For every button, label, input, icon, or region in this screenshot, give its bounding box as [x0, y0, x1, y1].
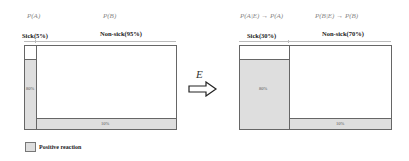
top-dimension-line	[24, 41, 176, 42]
posterior-b-label: P(B|E) → P(B)	[315, 12, 358, 20]
legend-swatch	[25, 142, 36, 152]
right-arrow-icon	[188, 81, 218, 97]
population-box: 80% 10%	[239, 45, 392, 130]
dimension-tick	[35, 40, 36, 43]
prob-a-label: P(A)	[27, 12, 40, 20]
sick-positive-region	[25, 59, 36, 129]
sick-positive-region	[240, 59, 289, 129]
nonsick-header: Non-sick(95%)	[100, 30, 142, 37]
sick-header: Sick(30%)	[247, 32, 276, 39]
population-box: 80% 10%	[24, 45, 177, 130]
nonsick-positive-pct: 10%	[101, 121, 109, 126]
sick-positive-pct: 80%	[259, 86, 267, 91]
evidence-label: E	[196, 68, 203, 80]
sick-positive-pct: 80%	[26, 86, 34, 91]
posterior-a-label: P(A|E) → P(A)	[240, 12, 283, 20]
legend-label: Positive reaction	[39, 144, 81, 150]
nonsick-header: Non-sick(70%)	[322, 30, 364, 37]
sick-header: Sick(5%)	[22, 32, 48, 39]
sick-divider	[289, 46, 290, 129]
prob-b-label: P(B)	[103, 12, 116, 20]
sick-divider	[36, 46, 37, 129]
dimension-tick	[288, 40, 289, 43]
nonsick-positive-pct: 10%	[336, 121, 344, 126]
top-dimension-line	[239, 41, 391, 42]
